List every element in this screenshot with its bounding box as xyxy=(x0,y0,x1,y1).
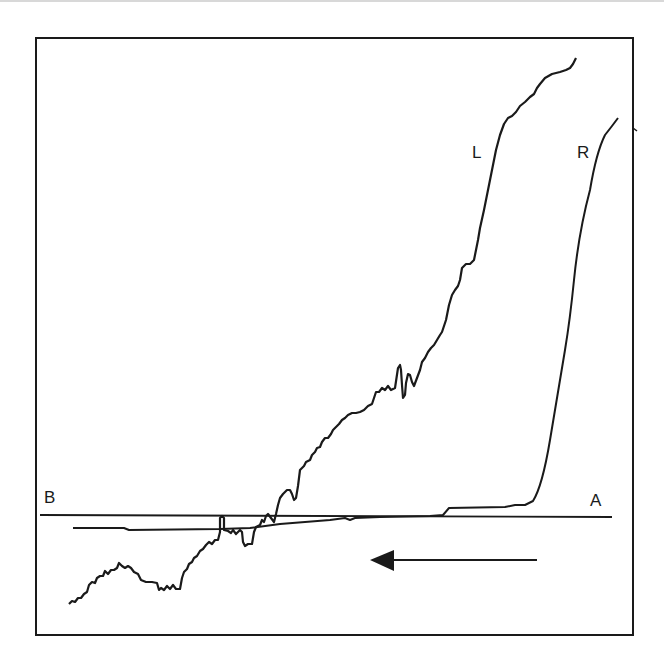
label-curve-r: R xyxy=(577,143,589,162)
frame-border xyxy=(36,38,633,635)
label-baseline-a: A xyxy=(590,491,602,510)
diagram-figure: L R B A xyxy=(0,0,664,663)
curve-l-trace xyxy=(69,58,576,604)
label-baseline-b: B xyxy=(44,488,55,507)
label-curve-l: L xyxy=(472,143,481,162)
arrow-left-icon xyxy=(370,550,537,571)
curve-r-lower-trace xyxy=(73,118,618,530)
baseline-b-a xyxy=(40,515,612,517)
